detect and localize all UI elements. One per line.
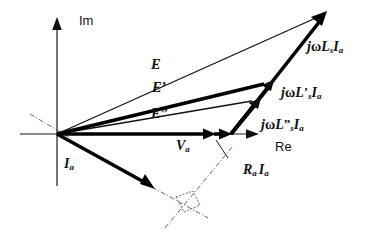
axes-group: [20, 17, 259, 186]
phasor-label-jwLsDoublePrimeIa: jωL”sIa: [261, 117, 304, 133]
current-extension-line: [152, 187, 208, 218]
phasor-Ia-arrowhead: [140, 174, 155, 189]
phasor-label-Ia: Ia: [64, 157, 74, 172]
phasor-label-E-prime: E’: [152, 80, 166, 95]
phasor-RaIa-arrowhead: [219, 128, 232, 139]
axis-label-real: Re: [275, 140, 292, 153]
RaIa-pointer-line: [216, 140, 228, 158]
imaginary-axis-arrowhead: [52, 17, 62, 30]
perpendicular-construction-line: [165, 146, 233, 228]
phasor-label-jwLsPrimeIa: jωL’sIa: [281, 85, 322, 101]
phasor-jwLsDoublePrimeIa-line: [231, 105, 255, 134]
real-axis-arrowhead: [246, 129, 259, 139]
phasor-diagram-canvas: [0, 0, 370, 235]
phasor-label-E: E: [151, 57, 161, 72]
phasor-label-RaIa: RaIa: [243, 163, 269, 178]
thick-phasors-group: [57, 21, 320, 189]
phasor-label-E-double-prime: E”: [151, 106, 168, 121]
axis-label-imaginary: Im: [79, 14, 93, 27]
phasor-label-Va: Va: [176, 139, 190, 154]
phasor-diagram: Im Re E E’ E” Va RaIa Ia jωLsIa jωL’sIa …: [0, 0, 370, 235]
phasor-label-jwLsIa: jωLsIa: [307, 40, 343, 55]
right-angle-marker: [176, 191, 200, 212]
construction-lines-group: [30, 114, 233, 228]
